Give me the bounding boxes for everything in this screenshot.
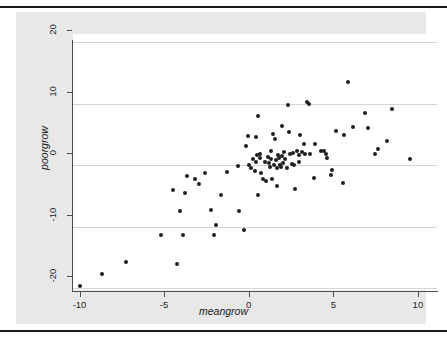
- y-tick-label--10: -10: [47, 202, 58, 226]
- scatter-point: [334, 129, 338, 133]
- scatter-point: [259, 171, 263, 175]
- scatter-point: [282, 150, 286, 154]
- scatter-point: [279, 165, 283, 169]
- scatter-point: [254, 135, 258, 139]
- scatter-point: [408, 157, 412, 161]
- scatter-point: [275, 184, 279, 188]
- scatter-point: [178, 209, 182, 213]
- x-tick-0: [249, 292, 250, 297]
- x-axis-line: [72, 291, 438, 292]
- y-tick--20: [67, 276, 72, 277]
- scatter-point: [225, 170, 229, 174]
- scatter-point: [373, 152, 377, 156]
- scatter-point: [308, 152, 312, 156]
- y-tick-label--20: -20: [47, 264, 58, 288]
- scatter-point: [292, 163, 296, 167]
- scatter-point: [325, 156, 329, 160]
- scatter-point: [281, 161, 285, 165]
- scatter-point: [293, 187, 297, 191]
- scatter-point: [297, 160, 301, 164]
- y-tick--10: [67, 215, 72, 216]
- gridline-y--10: [73, 227, 437, 228]
- y-tick-label-10: 10: [47, 79, 58, 103]
- scatter-point: [285, 166, 289, 170]
- graph-region: -20-1001020 -10-50510 poorgrow: [16, 12, 426, 324]
- scatter-point: [307, 102, 311, 106]
- scatter-point: [254, 160, 258, 164]
- scatter-point: [269, 157, 273, 161]
- document-page: -20-1001020 -10-50510 poorgrow meangrow: [0, 0, 447, 338]
- scatter-point: [269, 149, 273, 153]
- plot-region: [73, 34, 437, 290]
- y-tick-10: [67, 92, 72, 93]
- y-axis-line: [72, 40, 73, 292]
- scatter-point: [280, 124, 284, 128]
- scatter-point: [197, 182, 201, 186]
- scatter-point: [185, 174, 189, 178]
- scatter-point: [366, 126, 370, 130]
- scatter-point: [242, 228, 246, 232]
- scatter-point: [171, 188, 175, 192]
- page-top-rule: [0, 6, 447, 8]
- scatter-point: [236, 164, 240, 168]
- scatter-point: [253, 169, 257, 173]
- x-tick--5: [164, 292, 165, 297]
- scatter-point: [283, 157, 287, 161]
- gridline-y-0: [73, 165, 437, 166]
- scatter-point: [390, 107, 394, 111]
- scatter-point: [376, 147, 380, 151]
- scatter-point: [175, 262, 179, 266]
- scatter-point: [256, 114, 260, 118]
- scatter-point: [341, 181, 345, 185]
- scatter-point: [273, 137, 277, 141]
- y-tick-label-20: 20: [47, 18, 58, 42]
- scatter-point: [287, 130, 291, 134]
- scatter-point: [258, 156, 262, 160]
- scatter-point: [330, 168, 334, 172]
- scatter-point: [270, 177, 274, 181]
- scatter-point: [181, 233, 185, 237]
- scatter-point: [363, 111, 367, 115]
- scatter-point: [219, 193, 223, 197]
- x-tick--10: [80, 292, 81, 297]
- scatter-point: [100, 272, 104, 276]
- scatter-point: [237, 209, 241, 213]
- scatter-point: [342, 133, 346, 137]
- scatter-point: [244, 144, 248, 148]
- y-tick-0: [67, 153, 72, 154]
- scatter-point: [351, 125, 355, 129]
- scatter-point: [124, 260, 128, 264]
- scatter-point: [302, 142, 306, 146]
- scatter-point: [346, 80, 350, 84]
- scatter-point: [264, 179, 268, 183]
- x-axis-title: meangrow: [0, 305, 447, 317]
- x-tick-10: [418, 292, 419, 297]
- x-tick-5: [333, 292, 334, 297]
- scatter-point: [303, 152, 307, 156]
- scatter-point: [385, 139, 389, 143]
- scatter-point: [212, 233, 216, 237]
- gridline-y-20: [73, 42, 437, 43]
- scatter-point: [159, 233, 163, 237]
- scatter-point: [256, 193, 260, 197]
- gridline-y-10: [73, 104, 437, 105]
- page-bottom-rule: [0, 330, 447, 332]
- scatter-point: [209, 208, 213, 212]
- scatter-point: [313, 142, 317, 146]
- scatter-point: [246, 134, 250, 138]
- scatter-point: [286, 103, 290, 107]
- scatter-point: [183, 191, 187, 195]
- scatter-point: [214, 223, 218, 227]
- scatter-point: [329, 173, 333, 177]
- scatter-point: [203, 171, 207, 175]
- scatter-point: [312, 176, 316, 180]
- scatter-point: [271, 132, 275, 136]
- scatter-point: [193, 177, 197, 181]
- gridline-y--20: [73, 288, 437, 289]
- y-tick-20: [67, 30, 72, 31]
- scatter-point: [298, 133, 302, 137]
- y-axis-title: poorgrow: [38, 118, 50, 178]
